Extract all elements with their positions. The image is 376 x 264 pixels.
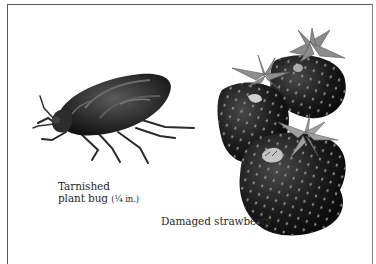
tarnished-plant-bug-icon	[33, 74, 194, 163]
strawberry-caption: Damaged strawberry	[161, 215, 272, 227]
bug-caption-size: (¼ in.)	[111, 194, 139, 204]
damaged-strawberry-icon	[217, 28, 345, 236]
bug-caption-line2: plant bug (¼ in.)	[58, 192, 139, 205]
bug-caption: Tarnished plant bug (¼ in.)	[58, 180, 139, 205]
bug-caption-line1: Tarnished	[58, 180, 139, 192]
bug-caption-name: plant bug	[58, 192, 108, 204]
